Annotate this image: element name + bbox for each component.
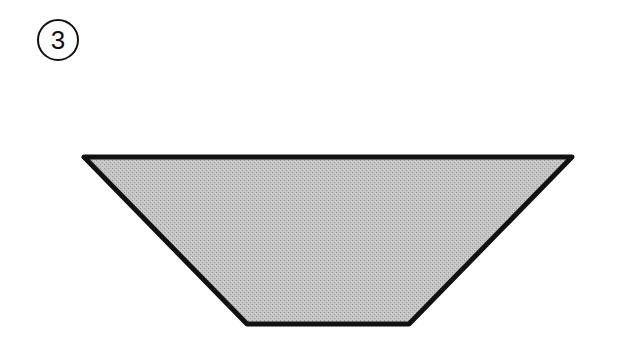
diagram-canvas <box>0 0 632 355</box>
inverted-trapezoid-shape <box>84 157 572 324</box>
